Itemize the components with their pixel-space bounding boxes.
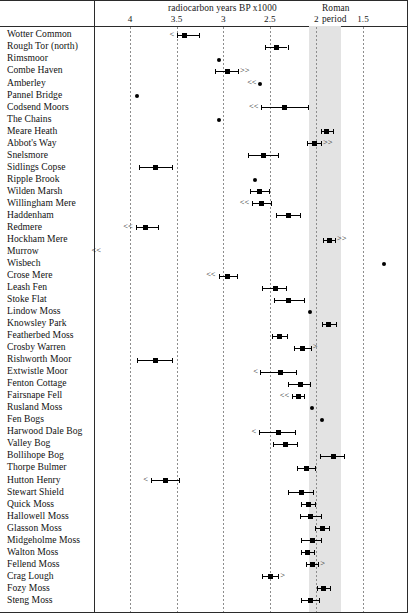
error-bar-cap-left — [265, 45, 266, 50]
error-bar-cap-left — [292, 394, 293, 399]
site-label: Fen Bogs — [7, 413, 44, 424]
site-label: Hallowell Moss — [7, 510, 69, 521]
younger-limit-arrow: >> — [323, 139, 332, 147]
error-bar-cap-right — [304, 394, 305, 399]
data-point-marker — [273, 286, 278, 291]
older-limit-arrow: << — [206, 271, 215, 279]
error-bar-cap-right — [278, 574, 279, 579]
error-bar-cap-right — [172, 358, 173, 363]
site-label: Glasson Moss — [7, 522, 62, 533]
error-bar-cap-right — [295, 430, 296, 435]
error-bar-cap-right — [297, 442, 298, 447]
data-point-marker — [305, 550, 310, 555]
data-point-marker — [286, 213, 291, 218]
gridline-3 — [223, 27, 224, 612]
site-label: Bollihope Bog — [7, 449, 64, 460]
axis-title: radiocarbon years BP x1000 — [168, 3, 277, 13]
site-label: Fozy Moss — [7, 582, 50, 593]
data-point-marker — [163, 478, 168, 483]
site-label: Rishworth Moor — [7, 353, 71, 364]
error-bar-cap-right — [330, 586, 331, 591]
data-point-marker — [296, 394, 301, 399]
error-bar-cap-right — [318, 562, 319, 567]
site-label: The Chains — [7, 113, 51, 124]
error-bar-cap-left — [272, 334, 273, 339]
error-bar-cap-right — [179, 478, 180, 483]
roman-period-band — [309, 26, 341, 612]
error-bar-cap-right — [315, 502, 316, 507]
site-label: Harwood Dale Bog — [7, 425, 82, 436]
error-bar-cap-right — [296, 370, 297, 375]
error-bar-cap-left — [274, 298, 275, 303]
data-point-marker — [331, 454, 336, 459]
data-point-dot — [217, 118, 221, 122]
error-bar-cap-left — [301, 598, 302, 603]
site-label: Meare Heath — [7, 125, 57, 136]
error-bar-cap-left — [219, 274, 220, 279]
site-label: Extwistle Moor — [7, 365, 68, 376]
data-point-marker — [310, 562, 315, 567]
error-bar-cap-left — [262, 574, 263, 579]
roman-band-label-line2: period — [322, 14, 347, 24]
error-bar-cap-left — [248, 153, 249, 158]
younger-limit-arrow: > — [313, 343, 318, 351]
data-point-marker — [277, 334, 282, 339]
error-bar-cap-right — [286, 286, 287, 291]
error-bar-cap-left — [215, 69, 216, 74]
error-bar-cap-right — [333, 129, 334, 134]
site-label: Sidlings Copse — [7, 161, 66, 172]
younger-limit-arrow: > — [280, 572, 285, 580]
radiocarbon-dates-figure: radiocarbon years BP x1000 Roman period … — [0, 0, 408, 613]
data-point-marker — [153, 358, 158, 363]
younger-limit-arrow: > — [320, 560, 325, 568]
site-label: Quick Moss — [7, 498, 54, 509]
site-label: Rimsmoor — [7, 52, 48, 63]
error-bar-cap-left — [294, 346, 295, 351]
older-limit-arrow: << — [240, 199, 249, 207]
site-label: Wisbech — [7, 257, 41, 268]
error-bar-cap-right — [199, 33, 200, 38]
data-point-marker — [327, 238, 332, 243]
older-limit-arrow: < — [253, 368, 258, 376]
error-bar-cap-left — [306, 562, 307, 567]
site-label: Featherbed Moss — [7, 329, 74, 340]
error-bar-cap-left — [259, 430, 260, 435]
data-point-marker — [153, 165, 158, 170]
data-point-marker — [324, 129, 329, 134]
site-label: Haddenham — [7, 209, 54, 220]
data-point-marker — [286, 298, 291, 303]
error-bar-cap-right — [238, 69, 239, 74]
data-point-marker — [310, 538, 315, 543]
error-bar-cap-left — [273, 442, 274, 447]
data-point-marker — [300, 346, 305, 351]
site-label: Fellend Moss — [7, 558, 60, 569]
older-limit-arrow: << — [280, 392, 289, 400]
older-limit-arrow: < — [251, 428, 256, 436]
site-label: Stewart Shield — [7, 486, 64, 497]
error-bar-cap-right — [311, 346, 312, 351]
gridline-4 — [130, 27, 131, 612]
older-limit-arrow: << — [247, 79, 256, 87]
error-bar-cap-left — [137, 358, 138, 363]
data-point-marker — [257, 189, 262, 194]
error-bar-cap-right — [304, 298, 305, 303]
error-bar-cap-right — [278, 153, 279, 158]
error-bar-cap-right — [335, 238, 336, 243]
younger-limit-arrow: >> — [240, 67, 249, 75]
error-bar-cap-right — [310, 382, 311, 387]
error-bar-cap-left — [321, 129, 322, 134]
site-label: Hutton Henry — [7, 474, 61, 485]
error-bar-cap-left — [297, 466, 298, 471]
site-label: Amberley — [7, 77, 46, 88]
site-label: Crosby Warren — [7, 341, 66, 352]
error-bar-cap-right — [336, 322, 337, 327]
data-point-marker — [225, 69, 230, 74]
error-bar-cap-left — [276, 213, 277, 218]
older-limit-arrow: << — [249, 103, 258, 111]
error-bar-cap-left — [301, 538, 302, 543]
error-bar-cap-left — [288, 490, 289, 495]
data-point-dot — [253, 178, 257, 182]
gridline-1-5 — [363, 27, 364, 612]
site-label: Valley Bog — [7, 437, 50, 448]
x-tick-label-1-5: 1.5 — [357, 14, 368, 24]
